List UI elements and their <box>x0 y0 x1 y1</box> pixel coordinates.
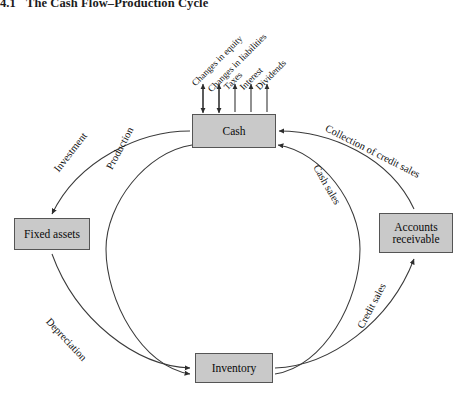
node-cash-label: Cash <box>223 125 246 138</box>
node-accounts-receivable-label-line2: receivable <box>392 233 439 246</box>
node-inventory[interactable]: Inventory <box>195 353 273 383</box>
node-fixed-assets[interactable]: Fixed assets <box>14 218 90 250</box>
edge-production <box>106 145 192 374</box>
node-inventory-label: Inventory <box>212 362 257 375</box>
node-accounts-receivable[interactable]: Accounts receivable <box>379 213 453 253</box>
node-fixed-assets-label: Fixed assets <box>24 228 80 241</box>
node-accounts-receivable-label-line1: Accounts <box>392 221 439 234</box>
node-cash[interactable]: Cash <box>192 114 276 148</box>
